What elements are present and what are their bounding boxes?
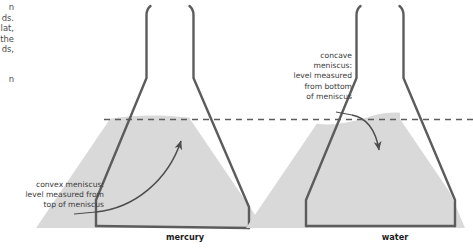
flask-label-water: water [335,232,455,242]
callout-concave-meniscus: concave meniscus: level measured from bo… [258,51,352,102]
concave-leader-line [336,112,352,115]
flask-water [232,6,470,240]
meniscus-figure [0,0,473,248]
page-body-text-fragment-top: n ds. lat, the ds, [0,2,14,55]
flask-label-mercury: mercury [125,232,245,242]
water-liquid [232,113,470,240]
page-body-text-fragment-bottom: n [0,74,14,85]
mercury-liquid [20,116,278,241]
callout-convex-meniscus: convex meniscus: level measured from top… [0,180,104,211]
